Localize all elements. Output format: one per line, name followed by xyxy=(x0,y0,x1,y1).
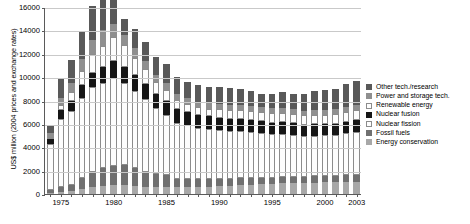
bar-segment-renewable_energy xyxy=(110,37,117,60)
bar-segment-power_storage xyxy=(142,61,149,69)
x-axis-tick xyxy=(93,194,94,197)
legend-swatch-power_storage xyxy=(366,93,372,99)
bar-1975 xyxy=(58,79,65,194)
gridline xyxy=(45,78,361,79)
bar-segment-other_tech xyxy=(142,42,149,61)
x-axis-tick xyxy=(145,194,146,197)
bar-segment-fossil_fuels xyxy=(195,179,202,187)
bar-1989 xyxy=(206,86,213,194)
bar-segment-nuclear_fission xyxy=(142,99,149,171)
legend-item-renewable_energy[interactable]: Renewable energy xyxy=(366,101,470,110)
bar-segment-energy_conservation xyxy=(142,187,149,194)
bar-1993 xyxy=(248,91,255,194)
bar-segment-renewable_energy xyxy=(206,109,213,117)
bar-segment-renewable_energy xyxy=(142,69,149,84)
y-axis-tick xyxy=(42,172,45,173)
x-axis-tick xyxy=(177,194,178,197)
legend-swatch-energy_conservation xyxy=(366,139,372,145)
x-axis-tick xyxy=(156,194,157,197)
legend-item-other_tech[interactable]: Other tech./research xyxy=(366,83,470,92)
bar-segment-renewable_energy xyxy=(353,110,360,120)
bar-segment-renewable_energy xyxy=(237,110,244,119)
bar-1978 xyxy=(89,6,96,194)
bar-1991 xyxy=(227,88,234,194)
gridline xyxy=(45,125,361,126)
x-axis-tick xyxy=(304,194,305,197)
bar-1995 xyxy=(269,94,276,195)
bar-segment-nuclear_fusion xyxy=(121,67,128,84)
bar-segment-energy_conservation xyxy=(353,182,360,194)
bar-segment-renewable_energy xyxy=(100,46,107,68)
y-axis-tick xyxy=(42,148,45,149)
legend-item-energy_conservation[interactable]: Energy conservation xyxy=(366,138,470,147)
y-axis-title-text: US$ million (2004 prices and exchange ra… xyxy=(9,0,18,198)
gridline xyxy=(45,102,361,103)
bar-segment-nuclear_fission xyxy=(163,115,170,176)
bar-segment-nuclear_fusion xyxy=(100,67,107,83)
bar-segment-nuclear_fission xyxy=(353,132,360,175)
bar-segment-power_storage xyxy=(89,40,96,54)
bar-segment-nuclear_fusion xyxy=(110,61,117,78)
bar-segment-fossil_fuels xyxy=(110,166,117,185)
bar-segment-fossil_fuels xyxy=(174,179,181,188)
x-axis-tick xyxy=(61,194,62,197)
bar-segment-renewable_energy xyxy=(258,112,265,121)
bar-segment-energy_conservation xyxy=(343,182,350,194)
bar-1977 xyxy=(79,32,86,194)
x-axis-tick xyxy=(124,194,125,197)
bar-segment-energy_conservation xyxy=(290,183,297,194)
legend-item-power_storage[interactable]: Power and storage tech. xyxy=(366,92,470,101)
bar-segment-renewable_energy xyxy=(269,113,276,122)
x-axis-tick xyxy=(336,194,337,197)
bar-segment-nuclear_fission xyxy=(153,108,160,173)
y-axis-tick-label: 8000 xyxy=(23,98,40,106)
bar-segment-renewable_energy xyxy=(195,107,202,115)
bar-segment-fossil_fuels xyxy=(216,179,223,186)
gridline xyxy=(45,148,361,149)
x-axis-tick xyxy=(219,194,220,197)
bar-segment-fossil_fuels xyxy=(79,178,86,189)
gridline xyxy=(45,31,361,32)
bar-2003 xyxy=(353,81,360,194)
bar-segment-energy_conservation xyxy=(332,182,339,194)
bar-1974 xyxy=(47,125,54,194)
bar-segment-fossil_fuels xyxy=(237,178,244,185)
bar-segment-energy_conservation xyxy=(89,187,96,194)
bar-segment-fossil_fuels xyxy=(206,179,213,186)
chart-container: US$ million (2004 prices and exchange ra… xyxy=(0,0,470,224)
bar-1990 xyxy=(216,86,223,194)
bar-segment-nuclear_fission xyxy=(322,135,329,176)
bar-segment-nuclear_fusion xyxy=(206,116,213,129)
legend-label: Nuclear fusion xyxy=(376,111,419,118)
legend-item-nuclear_fusion[interactable]: Nuclear fusion xyxy=(366,111,470,120)
bar-segment-fossil_fuels xyxy=(353,175,360,182)
bar-segment-renewable_energy xyxy=(68,92,75,101)
legend-item-fossil_fuels[interactable]: Fossil fuels xyxy=(366,129,470,138)
legend-label: Nuclear fission xyxy=(376,121,421,128)
bar-segment-other_tech xyxy=(195,85,202,101)
chart-legend: Other tech./researchPower and storage te… xyxy=(366,83,470,147)
bar-segment-energy_conservation xyxy=(248,185,255,194)
legend-item-nuclear_fission[interactable]: Nuclear fission xyxy=(366,120,470,129)
bar-segment-other_tech xyxy=(258,94,265,107)
y-axis-tick xyxy=(42,55,45,56)
bar-segment-other_tech xyxy=(47,125,54,133)
bar-1992 xyxy=(237,89,244,194)
bar-segment-energy_conservation xyxy=(237,185,244,194)
bar-segment-nuclear_fusion xyxy=(184,112,191,125)
gridline xyxy=(45,55,361,56)
bar-segment-energy_conservation xyxy=(132,186,139,194)
bar-segment-nuclear_fusion xyxy=(279,122,286,134)
bar-1997 xyxy=(290,94,297,195)
bar-segment-nuclear_fusion xyxy=(142,84,149,99)
bar-segment-energy_conservation xyxy=(121,185,128,194)
bar-1985 xyxy=(163,64,170,194)
x-axis-tick xyxy=(135,194,136,197)
legend-label: Other tech./research xyxy=(376,84,438,91)
bar-segment-nuclear_fusion xyxy=(248,120,255,132)
x-axis-tick-label: 1990 xyxy=(211,199,228,207)
x-axis-tick xyxy=(209,194,210,197)
bar-segment-power_storage xyxy=(121,35,128,46)
x-axis-tick-label: 2003 xyxy=(348,199,365,207)
x-axis-tick-label: 1975 xyxy=(52,199,69,207)
